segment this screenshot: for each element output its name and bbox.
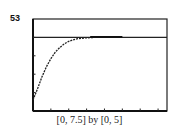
- window-caption: [0, 7.5] by [0, 5]: [0, 114, 179, 125]
- plot-frame: [33, 19, 167, 111]
- axis-ticks: [33, 37, 158, 111]
- plot-series: [33, 37, 167, 100]
